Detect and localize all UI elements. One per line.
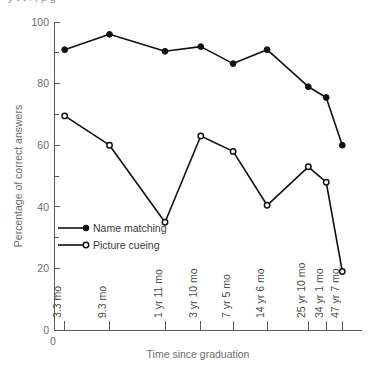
data-point [107, 143, 112, 148]
legend-item[interactable]: Name matching [58, 222, 167, 234]
x-axis-title: Time since graduation [147, 348, 250, 360]
x-category-label: 25 yr 10 mo [295, 262, 307, 318]
line-chart-canvas: 20406080100 Percentage of correct answer… [0, 0, 376, 371]
data-point [323, 95, 329, 101]
y-tick-label: 100 [31, 16, 49, 28]
x-category-label: 34 yr 1 mo [313, 268, 325, 318]
y-tick-label: 80 [37, 77, 49, 89]
data-point [324, 180, 329, 185]
series-1 [62, 31, 345, 148]
data-point [306, 164, 311, 169]
data-point [340, 269, 345, 274]
series-line [65, 34, 343, 145]
chart-legend: Name matchingPicture cueing [58, 222, 167, 251]
y-axis-minor-ticks [54, 53, 59, 299]
y-axis-major-ticks [54, 22, 60, 268]
y-axis-title: Percentage of correct answers [12, 105, 24, 247]
y-axis-tick-labels: 20406080100 [31, 16, 49, 274]
data-point [230, 61, 236, 67]
y-tick-label: 60 [37, 139, 49, 151]
x-axis-ticks [65, 321, 343, 330]
data-point [198, 44, 204, 50]
data-point [162, 48, 168, 54]
data-point [107, 31, 113, 37]
x-category-label: 3 yr 10 mo [187, 268, 199, 318]
legend-filled-circle-icon [83, 225, 89, 231]
data-point [198, 133, 203, 138]
x-axis-origin-label: 0 [50, 335, 56, 347]
data-point [62, 113, 67, 118]
y-tick-label: 20 [37, 262, 49, 274]
x-axis-category-labels: 3.3 mo9.3 mo1 yr 11 mo3 yr 10 mo7 yr 5 m… [51, 262, 341, 318]
data-point [264, 47, 270, 53]
data-point [339, 142, 345, 148]
data-point [230, 149, 235, 154]
legend-open-circle-icon [83, 242, 88, 247]
data-point [305, 84, 311, 90]
x-axis-group: 3.3 mo9.3 mo1 yr 11 mo3 yr 10 mo7 yr 5 m… [50, 262, 362, 360]
data-point [62, 47, 68, 53]
x-category-label: 1 yr 11 mo [152, 269, 164, 318]
x-category-label: 14 yr 6 mo [254, 268, 266, 318]
data-point [264, 203, 269, 208]
x-category-label: 9.3 mo [96, 286, 108, 318]
y-tick-label: 40 [37, 201, 49, 213]
x-category-label: 3.3 mo [51, 286, 63, 318]
legend-label: Picture cueing [93, 239, 160, 251]
legend-item[interactable]: Picture cueing [58, 239, 160, 251]
x-category-label: 7 yr 5 mo [220, 274, 232, 318]
chart-figure: y t t l , p g 20406080100 Percentage of … [0, 0, 376, 371]
data-series-layer [62, 31, 345, 274]
x-category-label: 47 yr 7 mo [329, 268, 341, 318]
y-axis-origin-label: 0 [43, 324, 49, 336]
legend-label: Name matching [93, 222, 167, 234]
